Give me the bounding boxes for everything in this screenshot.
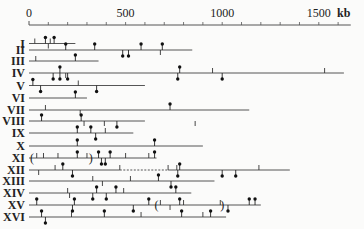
marker-pin-icon	[40, 209, 43, 212]
marker-pin-icon	[132, 209, 135, 212]
chromosome-label: IX	[12, 126, 26, 140]
marker-pin-icon	[253, 197, 256, 200]
chromosome-row-XVI: XVI	[3, 209, 226, 224]
marker-pin-icon	[169, 185, 172, 188]
marker-pin-icon	[73, 197, 76, 200]
chromosome-row-XI: XI()	[12, 150, 157, 165]
chromosome-map-figure: 050010001500kbIIIIIIIVVVIVIIVIIIIXXXI()X…	[0, 0, 364, 229]
marker-pin-icon	[178, 197, 181, 200]
marker-pin-icon	[121, 54, 124, 57]
chromosome-row-XIV: XIV	[3, 185, 191, 200]
marker-pin-icon	[105, 197, 108, 200]
marker-pin-icon	[76, 150, 79, 153]
marker-pin-icon	[44, 221, 47, 224]
marker-pin-icon	[209, 209, 212, 212]
chromosome-label: XVI	[3, 210, 25, 224]
marker-pin-icon	[176, 77, 179, 80]
bracket-icon: (	[30, 151, 34, 165]
marker-pin-icon	[178, 162, 181, 165]
marker-pin-icon	[76, 125, 79, 128]
marker-pin-icon	[161, 42, 164, 45]
marker-pin-icon	[79, 113, 82, 116]
marker-pin-icon	[153, 138, 156, 141]
chromosome-row-II: II	[16, 42, 193, 57]
scale-tick-label: 0	[26, 6, 32, 20]
marker-pin-icon	[153, 150, 156, 153]
marker-pin-icon	[61, 162, 64, 165]
scale-tick-label: 1500	[307, 6, 331, 20]
scale-axis: 050010001500kb	[26, 6, 351, 25]
marker-pin-icon	[31, 78, 34, 81]
marker-pin-icon	[248, 197, 251, 200]
chromosome-row-XV: XV()	[8, 197, 261, 212]
marker-pin-icon	[39, 90, 42, 93]
scale-tick-label: 500	[117, 6, 135, 20]
marker-pin-icon	[94, 137, 97, 140]
marker-pin-icon	[234, 174, 237, 177]
marker-pin-icon	[221, 174, 224, 177]
marker-pin-icon	[147, 197, 150, 200]
marker-pin-icon	[74, 90, 77, 93]
marker-pin-icon	[108, 150, 111, 153]
marker-pin-icon	[66, 77, 69, 80]
marker-pin-icon	[221, 77, 224, 80]
marker-pin-icon	[74, 53, 77, 56]
marker-pin-icon	[52, 36, 55, 39]
bracket-icon: (	[155, 198, 159, 212]
marker-pin-icon	[89, 125, 92, 128]
marker-pin-icon	[139, 42, 142, 45]
marker-pin-icon	[51, 77, 54, 80]
marker-pin-icon	[76, 138, 79, 141]
chromosome-row-XII: XII	[7, 162, 290, 177]
marker-pin-icon	[95, 185, 98, 188]
marker-pin-icon	[100, 162, 103, 165]
marker-pin-icon	[115, 125, 118, 128]
marker-pin-icon	[114, 185, 117, 188]
chromosome-map-svg: 050010001500kbIIIIIIIVVVIVIIVIIIIXXXI()X…	[0, 0, 364, 229]
marker-pin-icon	[64, 42, 67, 45]
marker-pin-icon	[44, 36, 47, 39]
marker-pin-icon	[91, 197, 94, 200]
chromosome-row-VII: VII	[7, 102, 249, 117]
marker-pin-icon	[97, 150, 100, 153]
bracket-icon: )	[89, 151, 93, 165]
marker-pin-icon	[35, 197, 38, 200]
marker-pin-icon	[176, 174, 179, 177]
marker-pin-icon	[104, 162, 107, 165]
scale-tick-label: 1000	[210, 6, 234, 20]
marker-pin-icon	[157, 173, 160, 176]
bracket-icon: )	[220, 198, 224, 212]
marker-pin-icon	[103, 209, 106, 212]
scale-unit-label: kb	[337, 6, 351, 20]
chromosome-row-VIII: VIII	[2, 113, 195, 128]
marker-pin-icon	[58, 77, 61, 80]
marker-pin-icon	[40, 113, 43, 116]
marker-pin-icon	[174, 185, 177, 188]
chromosome-row-XIII: XIII	[2, 173, 214, 188]
chromosome-row-V: V	[16, 78, 145, 93]
marker-pin-icon	[180, 209, 183, 212]
marker-pin-icon	[127, 54, 130, 57]
marker-pin-icon	[168, 102, 171, 105]
marker-pin-icon	[71, 174, 74, 177]
marker-pin-icon	[93, 42, 96, 45]
chromosome-row-IV: IV	[12, 65, 344, 80]
marker-pin-icon	[226, 209, 229, 212]
marker-pin-icon	[95, 90, 98, 93]
marker-pin-icon	[58, 65, 61, 68]
marker-pin-icon	[178, 65, 181, 68]
chromosome-row-IX: IX	[12, 125, 134, 140]
